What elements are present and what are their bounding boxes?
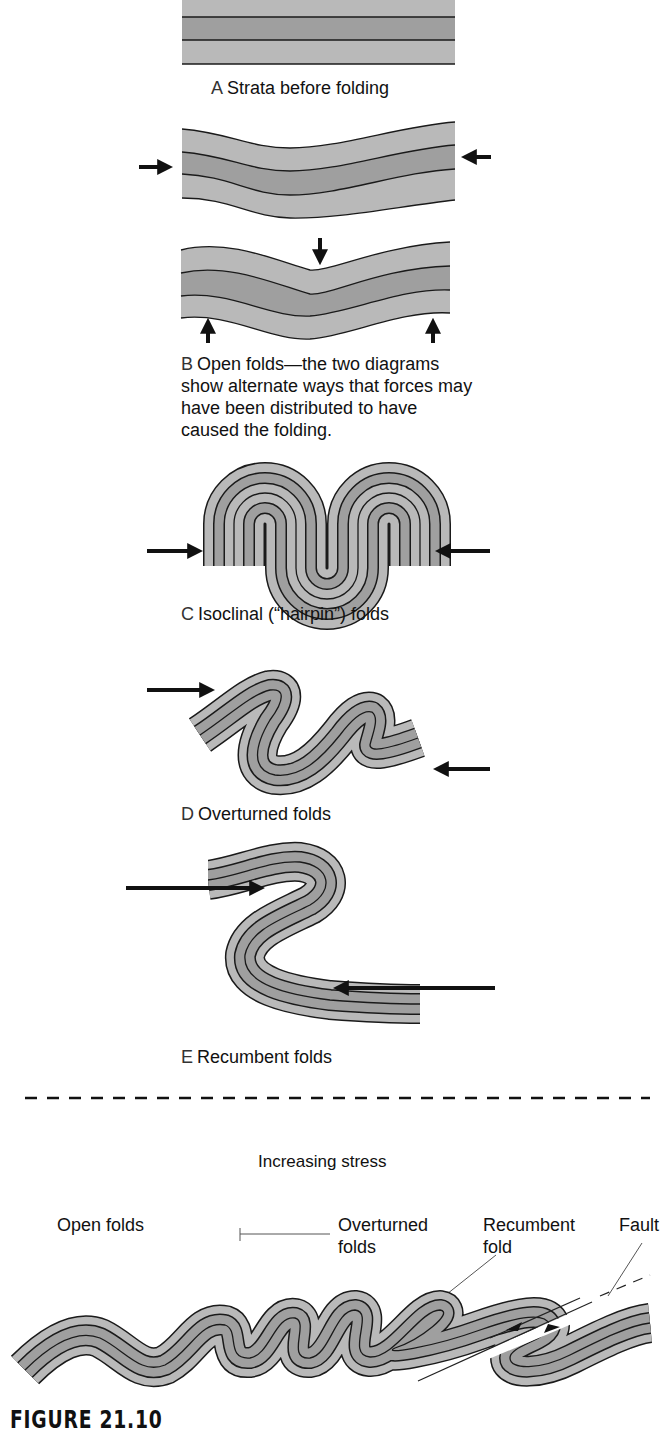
summary-fold-sequence [25,1310,650,1370]
summary-title: Increasing stress [258,1151,387,1173]
panel-b-fold-horizontal [182,122,455,218]
panel-letter: B [181,354,193,374]
label-recumbent-fold: Recumbent fold [483,1214,575,1258]
panel-letter: C [181,604,194,624]
caption-a: AStrata before folding [211,77,389,99]
caption-c: CIsoclinal (“hairpin”) folds [181,603,389,625]
label-overturned-folds: Overturned folds [338,1214,428,1258]
panel-letter: A [211,78,223,98]
leader-line [442,1255,496,1298]
label-fault: Fault [619,1214,659,1236]
caption-b: BOpen folds—the two diagrams show altern… [181,353,472,441]
caption-d: DOverturned folds [181,803,331,825]
panel-c-isoclinal [200,493,420,599]
caption-e: ERecumbent folds [181,1046,332,1068]
label-open-folds: Open folds [57,1214,144,1236]
figure-number: FIGURE 21.10 [10,1406,163,1432]
panel-a-strata [182,0,455,64]
panel-d-overturned [200,690,418,776]
panel-e-recumbent [190,855,440,1025]
leader-line [608,1243,642,1296]
panel-letter: E [181,1047,193,1067]
panel-letter: D [181,804,194,824]
panel-b-fold-vertical [181,242,450,339]
